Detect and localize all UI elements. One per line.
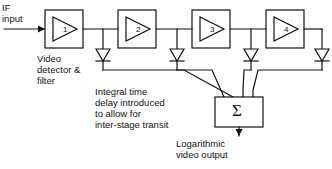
summing-harness-branch-3 [243,70,251,97]
amplifier-number-3: 3 [210,25,214,34]
amplifier-number-2: 2 [136,25,140,34]
if-input-label: IF input [2,2,23,24]
amplifier-number-4: 4 [284,25,288,34]
diode-triangle-2 [170,49,184,61]
summing-harness-branch-2 [177,70,233,97]
integral-time-delay-label: Integral time delay introduced to allow … [95,86,168,130]
amplifier-number-1: 1 [63,25,67,34]
logarithmic-video-output-label: Logarithmic video output [176,138,228,160]
sigma-symbol: Σ [232,101,242,121]
summing-harness-branch-4 [253,70,322,97]
diode-triangle-1 [96,49,110,61]
log-video-output-arrowhead [235,129,242,136]
diode-triangle-3 [244,49,258,61]
diode-triangle-4 [315,49,329,61]
if-input-arrowhead [38,25,45,32]
video-detector-filter-label: Video detector & filter [37,53,80,86]
diagram-canvas: 1 2 3 4 Σ IF input Video detector & filt… [0,0,332,169]
